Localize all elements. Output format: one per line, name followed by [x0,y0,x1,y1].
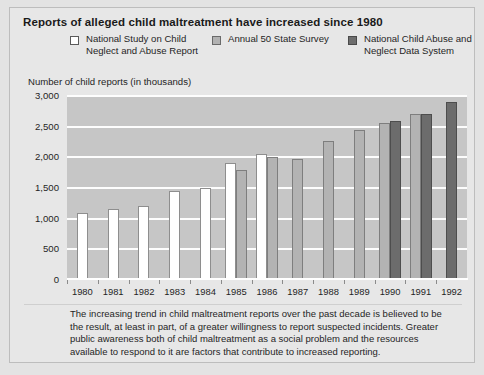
y-axis-tick-labels: 05001,0001,5002,0002,5003,000 [10,96,67,280]
x-axis-tick [375,280,376,284]
x-axis-tick [436,280,437,284]
bar [410,114,421,280]
bar [169,191,180,280]
bar [354,130,365,280]
legend-label: National Study on Child Neglect and Abus… [86,33,210,56]
legend-label: National Child Abuse and Neglect Data Sy… [364,33,484,56]
bar [138,206,149,280]
x-axis-tick [313,280,314,284]
x-axis-tick [221,280,222,284]
gridline [67,126,467,128]
x-axis-tick [159,280,160,284]
y-axis-tick-label: 3,000 [10,90,59,101]
y-axis-caption: Number of child reports (in thousands) [28,76,191,87]
bar [225,163,236,280]
y-axis-tick-label: 2,000 [10,151,59,162]
y-axis-tick-label: 1,000 [10,213,59,224]
x-axis-tick [344,280,345,284]
y-axis-tick-label: 1,500 [10,182,59,193]
figure-card: Reports of alleged child maltreatment ha… [9,7,475,363]
bar [421,114,432,280]
legend-swatch-mid-gray-icon [212,36,221,45]
legend-label: Annual 50 State Survey [228,33,329,45]
bar [267,157,278,280]
x-axis: 1980198119821983198419851986198719881989… [67,280,468,302]
gridline [67,95,467,97]
x-axis-tick [67,280,68,284]
figure-caption: The increasing trend in child maltreatme… [70,308,455,358]
bar [256,154,267,280]
legend-swatch-white-icon [70,36,79,45]
chart-legend: National Study on Child Neglect and Abus… [70,34,470,68]
x-axis-tick-label: 1992 [432,286,472,297]
x-axis-tick [405,280,406,284]
caption-divider [24,304,462,305]
x-axis-tick [190,280,191,284]
x-axis-tick [252,280,253,284]
bar [379,123,390,280]
bar [77,213,88,280]
x-axis-tick [282,280,283,284]
x-axis-tick [129,280,130,284]
chart-title: Reports of alleged child maltreatment ha… [23,16,383,28]
y-axis-tick-label: 0 [10,274,59,285]
bar [390,121,401,280]
legend-swatch-dark-gray-icon [348,36,357,45]
bar [323,141,334,280]
bar [200,188,211,280]
plot-area [67,96,467,280]
x-axis-tick [98,280,99,284]
y-axis-tick-label: 500 [10,243,59,254]
bar [292,159,303,280]
bar [236,170,247,280]
y-axis-tick-label: 2,500 [10,121,59,132]
bar [108,209,119,280]
bar [446,102,457,280]
